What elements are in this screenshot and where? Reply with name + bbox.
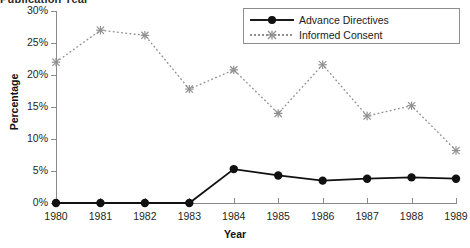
data-point-marker <box>52 58 60 66</box>
data-point-marker <box>363 112 371 120</box>
data-point-marker <box>185 85 193 93</box>
data-point-marker <box>274 109 282 117</box>
data-point-marker <box>318 176 326 184</box>
legend-item-advance-directives: Advance Directives <box>250 12 453 27</box>
data-point-marker <box>96 199 104 207</box>
line-chart: Publication Year 0%5%10%15%20%25%30% 198… <box>0 0 470 248</box>
data-point-marker <box>185 199 193 207</box>
data-point-marker <box>141 199 149 207</box>
data-point-marker <box>452 174 460 182</box>
legend: Advance Directives Informed Consent <box>243 8 460 44</box>
data-point-marker <box>96 26 104 34</box>
data-point-marker <box>452 146 460 154</box>
legend-key-advance-directives <box>250 14 294 26</box>
data-point-marker <box>230 165 238 173</box>
series-line-informed-consent <box>56 30 456 150</box>
legend-key-informed-consent <box>250 29 294 41</box>
legend-label-informed-consent: Informed Consent <box>299 29 382 41</box>
data-point-marker <box>363 174 371 182</box>
data-point-marker <box>274 171 282 179</box>
data-point-marker <box>318 61 326 69</box>
series-line-advance-directives <box>56 169 456 203</box>
data-point-marker <box>52 199 60 207</box>
data-point-marker <box>407 102 415 110</box>
legend-label-advance-directives: Advance Directives <box>299 14 389 26</box>
data-point-marker <box>407 173 415 181</box>
data-point-marker <box>230 66 238 74</box>
data-point-marker <box>141 31 149 39</box>
star-icon <box>267 30 277 40</box>
legend-item-informed-consent: Informed Consent <box>250 27 453 42</box>
